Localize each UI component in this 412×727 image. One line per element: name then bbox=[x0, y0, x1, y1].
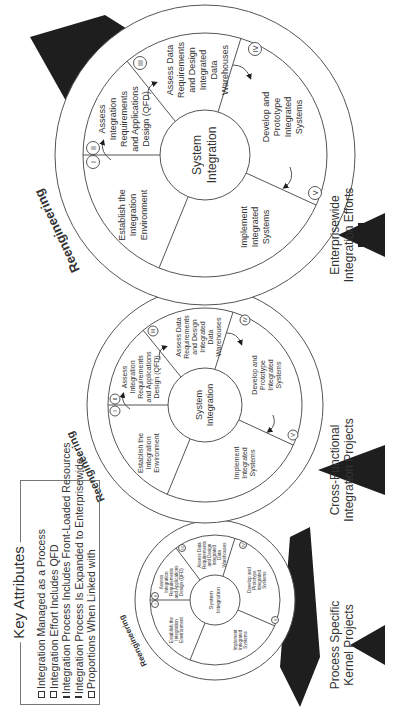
svg-text:IV: IV bbox=[242, 317, 248, 323]
key-attributes-title: Key Attributes bbox=[10, 542, 27, 643]
phase-establish: Establish theIntegrationEnvironment bbox=[169, 617, 184, 643]
checkbox-icon bbox=[88, 691, 95, 698]
hub-label: SystemIntegration bbox=[208, 587, 221, 613]
phase-assess-data: Assess DataRequirementsand DesignIntegra… bbox=[175, 315, 222, 359]
phase-implement: ImplementIntegratedSystems bbox=[239, 206, 271, 249]
checkbox-icon bbox=[38, 691, 45, 698]
svg-text:V: V bbox=[273, 618, 278, 621]
key-attribute-item: Integration Process Is Expanded to Enter… bbox=[73, 481, 86, 698]
phase-establish: Establish theIntegrationEnvironment bbox=[117, 189, 149, 241]
phase-establish: Establish theIntegrationEnvironment bbox=[137, 433, 160, 473]
svg-text:V: V bbox=[312, 190, 319, 195]
svg-text:II: II bbox=[153, 595, 158, 597]
scope-bar-process-icon bbox=[370, 635, 375, 655]
key-attributes-box: Key Attributes Integration Managed as a … bbox=[20, 480, 100, 705]
scope-bar-cross-functional-icon bbox=[370, 459, 384, 481]
checkbox-icon bbox=[63, 696, 70, 698]
svg-text:V: V bbox=[290, 433, 296, 437]
svg-text:III: III bbox=[137, 60, 144, 66]
svg-text:II: II bbox=[112, 397, 118, 401]
scope-label-process: Process Specific Kernel Projects bbox=[328, 593, 356, 697]
svg-text:IV: IV bbox=[252, 45, 259, 52]
cycle-cross-functional: Reengineering SystemIntegration Establis… bbox=[64, 287, 323, 523]
svg-text:III: III bbox=[150, 328, 156, 333]
scope-label-cross-functional: Cross-Functional Integration Projects bbox=[328, 410, 356, 530]
svg-text:III: III bbox=[180, 546, 185, 549]
key-attributes-list: Integration Managed as a Process Integra… bbox=[21, 481, 98, 704]
diagram-stage: Key Attributes Integration Managed as a … bbox=[0, 0, 412, 727]
checkbox-icon bbox=[50, 691, 57, 698]
phase-implement: ImplementIntegratedSystems bbox=[233, 447, 257, 480]
key-attribute-item: Integration Process Includes Front-Loade… bbox=[60, 481, 73, 698]
cycle-process-specific: Reengineering SystemIntegration Establis… bbox=[117, 520, 295, 680]
svg-text:I: I bbox=[90, 161, 97, 163]
key-attribute-item: Proportions When Linked with bbox=[85, 481, 98, 698]
phase-assess-data: Assess DataRequirementsand DesignIntegra… bbox=[165, 41, 230, 98]
svg-text:I: I bbox=[153, 603, 158, 604]
checkbox-icon bbox=[75, 696, 82, 698]
svg-text:II: II bbox=[90, 146, 97, 150]
phase-implement: ImplementIntegratedSystems bbox=[233, 629, 248, 651]
hub-label: SystemIntegration bbox=[194, 384, 215, 427]
hub-label: SystemIntegration bbox=[190, 127, 219, 184]
svg-text:IV: IV bbox=[241, 543, 246, 547]
key-attribute-item: Integration Managed as a Process bbox=[35, 481, 48, 698]
scope-label-enterprisewide: Enterprisewide Integration Efforts bbox=[328, 175, 356, 295]
key-attribute-item: Integration Effort Includes QFD bbox=[48, 481, 61, 698]
scope-bar-enterprisewide-icon bbox=[358, 223, 384, 247]
